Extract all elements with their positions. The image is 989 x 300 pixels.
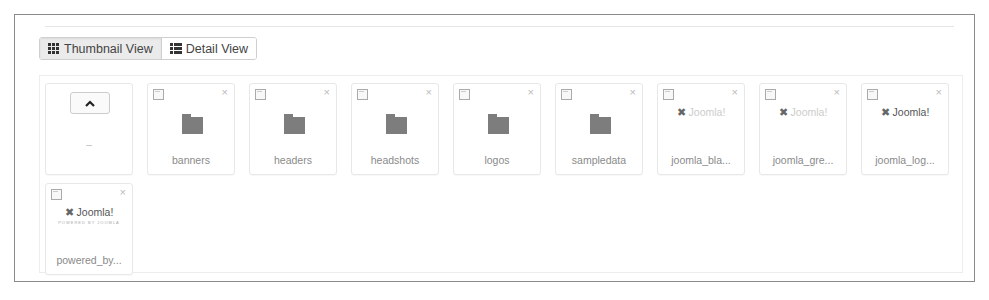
checkbox-icon[interactable] (255, 89, 266, 100)
folder-icon (182, 117, 203, 134)
folder-tile-headshots[interactable]: × headshots (351, 83, 439, 175)
delete-icon[interactable]: × (732, 86, 738, 98)
checkbox-icon[interactable] (561, 89, 572, 100)
delete-icon[interactable]: × (426, 86, 432, 98)
chevron-up-icon (85, 100, 95, 107)
delete-icon[interactable]: × (834, 86, 840, 98)
delete-icon[interactable]: × (630, 86, 636, 98)
checkbox-icon[interactable] (867, 89, 878, 100)
item-name: headers (250, 154, 336, 166)
media-manager-frame: Thumbnail View Detail View – × banners × (14, 14, 975, 282)
checkbox-icon[interactable] (51, 189, 62, 200)
image-tile-joomla-logo[interactable]: × ✖ Joomla! joomla_log... (861, 83, 949, 175)
thumbnail-view-label: Thumbnail View (64, 42, 153, 56)
thumbnail-grid: – × banners × headers × headshots × logo… (39, 75, 963, 273)
folder-icon (590, 117, 611, 134)
parent-folder-tile[interactable]: – (45, 83, 133, 175)
joomla-logo-icon: ✖ (65, 206, 74, 218)
image-thumbnail: ✖ Joomla! (658, 106, 744, 119)
image-thumbnail: ✖ Joomla! POWERED BY JOOMLA (46, 206, 132, 225)
folder-tile-sampledata[interactable]: × sampledata (555, 83, 643, 175)
item-name: banners (148, 154, 234, 166)
delete-icon[interactable]: × (120, 186, 126, 198)
delete-icon[interactable]: × (222, 86, 228, 98)
detail-view-label: Detail View (186, 42, 248, 56)
folder-icon (488, 117, 509, 134)
checkbox-icon[interactable] (459, 89, 470, 100)
image-tile-joomla-black[interactable]: × ✖ Joomla! joomla_bla... (657, 83, 745, 175)
image-tile-joomla-green[interactable]: × ✖ Joomla! joomla_gre... (759, 83, 847, 175)
folder-icon (284, 117, 305, 134)
detail-view-button[interactable]: Detail View (162, 38, 256, 59)
folder-tile-logos[interactable]: × logos (453, 83, 541, 175)
item-name: joomla_log... (862, 154, 948, 166)
joomla-logo-icon: ✖ (779, 106, 788, 118)
item-name: headshots (352, 154, 438, 166)
image-thumbnail: ✖ Joomla! (760, 106, 846, 119)
thumbnail-view-button[interactable]: Thumbnail View (40, 38, 162, 59)
joomla-logo-icon: ✖ (881, 106, 890, 118)
item-name: joomla_bla... (658, 154, 744, 166)
list-icon (170, 43, 182, 54)
folder-tile-headers[interactable]: × headers (249, 83, 337, 175)
item-name: logos (454, 154, 540, 166)
delete-icon[interactable]: × (936, 86, 942, 98)
item-name: powered_by... (46, 254, 132, 266)
delete-icon[interactable]: × (324, 86, 330, 98)
checkbox-icon[interactable] (663, 89, 674, 100)
image-thumbnail: ✖ Joomla! (862, 106, 948, 119)
joomla-logo-icon: ✖ (677, 106, 686, 118)
delete-icon[interactable]: × (528, 86, 534, 98)
image-tile-powered-by[interactable]: × ✖ Joomla! POWERED BY JOOMLA powered_by… (45, 183, 133, 275)
view-toggle: Thumbnail View Detail View (39, 37, 257, 60)
checkbox-icon[interactable] (153, 89, 164, 100)
checkbox-icon[interactable] (357, 89, 368, 100)
up-button[interactable] (70, 92, 110, 114)
folder-icon (386, 117, 407, 134)
parent-label: – (46, 139, 132, 150)
item-name: joomla_gre... (760, 154, 846, 166)
grid-icon (48, 43, 60, 54)
checkbox-icon[interactable] (765, 89, 776, 100)
item-name: sampledata (556, 154, 642, 166)
folder-tile-banners[interactable]: × banners (147, 83, 235, 175)
divider (45, 26, 954, 27)
